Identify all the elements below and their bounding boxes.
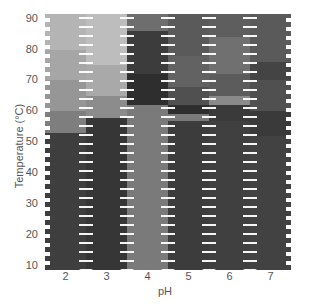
heatmap-plot-area	[45, 14, 291, 270]
y-tick-label: 90	[16, 12, 38, 24]
x-tick-label: 6	[220, 270, 240, 282]
x-tick-label: 5	[179, 270, 199, 282]
plot-edge-left	[44, 14, 50, 270]
x-tick-label: 7	[261, 270, 281, 282]
x-tick-label: 2	[56, 270, 76, 282]
y-tick-label: 70	[16, 73, 38, 85]
x-tick-label: 4	[138, 270, 158, 282]
column-separator	[79, 14, 93, 270]
y-tick-label: 20	[16, 228, 38, 240]
column-separator	[243, 14, 257, 270]
x-axis-label: pH	[150, 285, 180, 297]
column-separator	[161, 14, 175, 270]
plot-edge-right	[286, 14, 292, 270]
column-separator	[202, 14, 216, 270]
y-tick-label: 10	[16, 259, 38, 271]
y-tick-label: 80	[16, 43, 38, 55]
y-axis-label: Temperature (°C)	[13, 91, 25, 201]
x-tick-label: 3	[97, 270, 117, 282]
column-separator	[120, 14, 134, 270]
